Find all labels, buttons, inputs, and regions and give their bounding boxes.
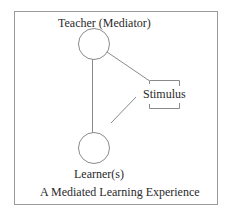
diagram-canvas: Teacher (Mediator) Stimulus Learner(s) A… [0,0,231,211]
edge-stimulus-learner [111,97,136,123]
teacher-node-circle [79,29,110,60]
edge-teacher-stimulus [107,52,149,81]
learner-node-circle [79,133,110,164]
teacher-node-label: Teacher (Mediator) [58,17,151,29]
diagram-caption: A Mediated Learning Experience [40,186,200,198]
learner-node-label: Learner(s) [74,168,124,180]
stimulus-node-label: Stimulus [143,88,186,100]
